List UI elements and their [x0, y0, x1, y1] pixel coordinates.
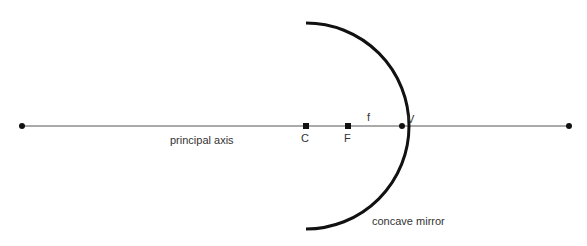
focal-length-label: f: [367, 112, 370, 123]
focus-label: F: [344, 133, 351, 144]
vertex-point: [399, 123, 405, 129]
mirror-label: concave mirror: [372, 216, 445, 227]
principal-axis-label: principal axis: [170, 135, 234, 146]
axis-right-endpoint: [566, 123, 572, 129]
diagram-canvas: [0, 0, 587, 246]
focal-point: [345, 123, 351, 129]
center-of-curvature-point: [303, 123, 309, 129]
center-label: C: [301, 133, 309, 144]
axis-left-endpoint: [19, 123, 25, 129]
vertex-label: V: [407, 114, 414, 125]
